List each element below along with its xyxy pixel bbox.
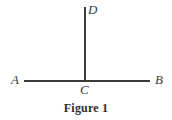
figure-container: D A B C Figure 1 (0, 0, 172, 120)
point-label-c: C (80, 83, 89, 96)
point-label-b: B (155, 73, 163, 86)
point-label-d: D (88, 3, 97, 16)
figure-caption: Figure 1 (0, 102, 172, 114)
point-label-a: A (11, 73, 19, 86)
